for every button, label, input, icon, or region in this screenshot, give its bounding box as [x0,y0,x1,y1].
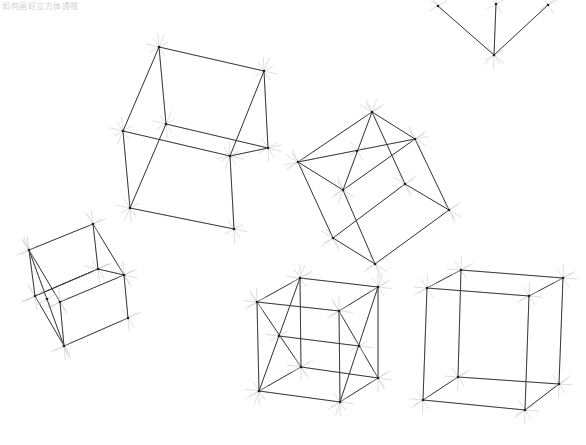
vertex-point [562,277,565,280]
vertex-point [63,345,66,348]
cube-edge [438,6,494,55]
cube-rotated-center [284,99,461,277]
cube-edge [159,47,264,71]
vertex-point [339,401,342,404]
cube-top-right-partial [427,0,558,69]
vertex-point [437,5,440,8]
vertex-point [426,287,429,290]
vertex-point [59,301,62,304]
cube-edge [458,377,559,384]
vertex-point [414,138,417,141]
cube-edge [60,275,124,302]
vertex-point [258,390,261,393]
cube-edge [257,302,339,311]
cube-edge [257,302,259,391]
cube-edge [423,377,458,400]
vertex-point [338,310,341,313]
vertex-point [256,301,259,304]
vertex-point [267,147,270,150]
cube-bottom-right [409,256,577,424]
vertex-point [165,123,168,126]
vertex-point [524,409,527,412]
vertex-point [34,295,37,298]
cube-edge [64,318,128,346]
cube-edge [29,224,93,250]
cube-bottom-middle-x [243,264,392,416]
vertex-point [460,269,463,272]
cube-edge [230,156,234,229]
cube-edge [494,5,548,55]
vertex-point [404,183,407,186]
vertex-point [377,286,380,289]
cube-edge [123,47,159,131]
vertex-point [122,130,125,133]
vertex-point [422,399,425,402]
cube-edge [123,131,230,156]
cube-edge [264,71,268,148]
vertex-point [300,366,303,369]
cube-edge [423,288,427,400]
cube-edge [130,208,234,229]
vertex-point [129,207,132,210]
vertex-point [46,298,49,301]
cube-edge [423,400,525,410]
vertex-point [123,274,126,277]
vertex-point [374,263,377,266]
cube-edge [461,270,563,278]
vertex-point [356,150,359,153]
cube-edge [300,278,378,287]
vertex-point [558,383,561,386]
vertex-point [448,209,451,212]
cube-edge [339,287,378,311]
vertex-point [457,376,460,379]
vertex-point [297,161,300,164]
cube-edge [375,210,449,264]
cube-sketch-canvas [0,0,586,445]
vertex-point [377,377,380,380]
vertex-point [229,155,232,158]
cube-large-upper [109,33,281,243]
vertex-point [342,189,345,192]
vertex-point [495,3,498,6]
cube-edge [124,275,128,318]
vertex-point [299,277,302,280]
cube-edge [415,139,449,210]
cube-edge [340,378,378,402]
vertex-point [158,46,161,49]
cube-edge [159,47,166,124]
vertex-point [92,223,95,226]
vertex-point [332,237,335,240]
vertex-point [28,249,31,252]
vertex-point [278,335,281,338]
cube-edge [123,131,130,208]
cube-edge [525,384,559,410]
cube-edge [559,278,563,384]
vertex-point [233,228,236,231]
vertex-point [528,295,531,298]
vertex-point [358,345,361,348]
cube-edge [300,278,301,367]
vertex-point [97,268,100,271]
vertex-point [493,54,496,57]
cube-edge [525,296,529,410]
vertex-point [263,70,266,73]
cube-edge [458,270,461,377]
vertex-point [371,111,374,114]
cube-edge [98,269,124,275]
cube-edge [427,288,529,296]
cube-edge [230,148,268,156]
cube-small-left [16,210,141,360]
cube-edge [259,391,340,402]
cube-edge [333,238,375,264]
cube-edge [35,269,98,296]
vertex-point [127,317,130,320]
cube-edge [494,4,496,55]
vertex-point [547,4,550,7]
cube-edge [279,336,359,346]
cube-edge [339,311,340,402]
